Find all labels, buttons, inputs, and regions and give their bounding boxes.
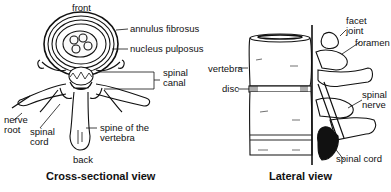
label-nerve-root-line2: root xyxy=(4,125,20,135)
label-back: back xyxy=(73,155,93,165)
caption-lateral-view: Lateral view xyxy=(269,170,332,182)
label-spinal-nerve-line2: nerve xyxy=(362,100,386,110)
label-spinal-cord-lateral: spinal cord xyxy=(336,154,382,164)
label-foramen: foramen xyxy=(355,38,390,48)
label-spinal-canal-line2: canal xyxy=(163,78,186,88)
label-spinal-cord-line2: cord xyxy=(30,137,48,147)
label-facet-joint-line2: joint xyxy=(346,26,363,36)
label-annulus-fibrosus: annulus fibrosus xyxy=(130,24,199,34)
label-spine-of-vertebra-line2: vertebra xyxy=(100,133,135,143)
caption-cross-sectional-view: Cross-sectional view xyxy=(46,170,155,182)
label-nucleus-pulposus: nucleus pulposus xyxy=(130,44,203,54)
label-front: front xyxy=(72,3,91,13)
label-vertebra: vertebra xyxy=(208,64,243,74)
label-disc: disc xyxy=(222,84,239,94)
